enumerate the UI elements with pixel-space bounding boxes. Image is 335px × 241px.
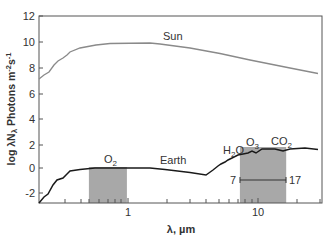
y-tick-12: 12 <box>23 10 35 22</box>
y-tick-neg2: -2 <box>25 187 35 199</box>
sun-label: Sun <box>163 30 183 42</box>
y-tick-4: 4 <box>29 113 35 125</box>
x-axis-label: λ, µm <box>167 223 196 235</box>
spectrum-chart: 12 10 8 6 4 2 0 -2 1 10 λ, µm log λNλ Ph… <box>0 0 335 241</box>
o2-band <box>89 167 127 203</box>
y-axis-label: log λNλ Photons m-2s-1 <box>4 53 19 166</box>
y-axis <box>39 16 43 193</box>
x-tick-10: 10 <box>252 206 264 218</box>
y-tick-6: 6 <box>29 88 35 100</box>
ir-window-band <box>240 147 286 203</box>
y-tick-labels: 12 10 8 6 4 2 0 -2 <box>23 10 35 199</box>
o2-label: O2 <box>104 153 118 168</box>
range-end-label: 17 <box>289 174 301 186</box>
y-tick-2: 2 <box>29 139 35 151</box>
range-start-label: 7 <box>230 174 236 186</box>
y-tick-0: 0 <box>29 162 35 174</box>
y-tick-8: 8 <box>29 62 35 74</box>
sun-curve <box>39 43 318 79</box>
x-tick-1: 1 <box>125 206 131 218</box>
earth-label: Earth <box>160 154 186 166</box>
y-tick-10: 10 <box>23 36 35 48</box>
